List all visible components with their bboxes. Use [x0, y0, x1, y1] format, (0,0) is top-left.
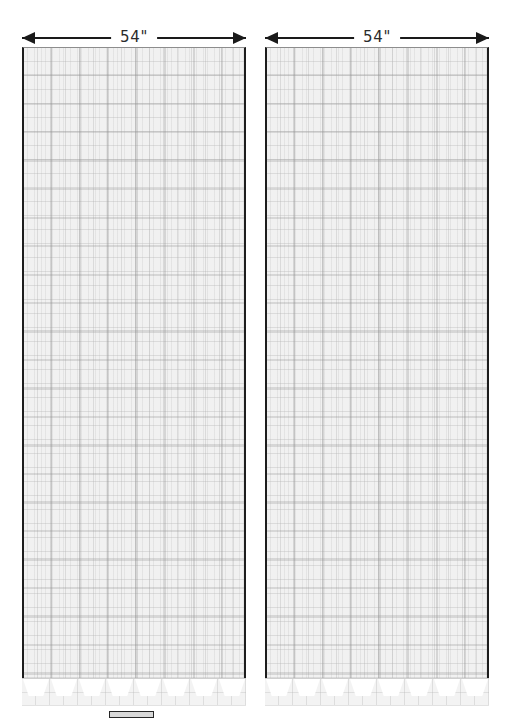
arrow-right-icon [233, 32, 246, 44]
hem-notch [406, 679, 432, 696]
hem-notch [107, 679, 133, 696]
hem-notches [265, 679, 489, 705]
hem-notch [191, 679, 217, 696]
curtain-panel-left [22, 47, 246, 678]
hem-notch [135, 679, 161, 696]
hem-notch [350, 679, 376, 696]
hem-notch [378, 679, 404, 696]
hem-notch [23, 679, 49, 696]
hem-notch [163, 679, 189, 696]
curtain-panel-right [265, 47, 489, 678]
arrow-right-icon [476, 32, 489, 44]
dimension-label-left: 54" [111, 26, 157, 48]
arrow-left-icon [265, 32, 278, 44]
hem-notch [266, 679, 292, 696]
panel-hem-right [265, 678, 489, 706]
diagram-canvas: 54" 54" [0, 0, 510, 725]
panel-hem-left [22, 678, 246, 706]
fabric-swatch [109, 711, 154, 718]
hem-notch [79, 679, 105, 696]
hem-notch [294, 679, 320, 696]
hem-notch [322, 679, 348, 696]
hem-notches [22, 679, 246, 705]
dimension-label-right: 54" [354, 26, 400, 48]
arrow-left-icon [22, 32, 35, 44]
hem-notch [51, 679, 77, 696]
hem-notch [434, 679, 460, 696]
hem-notch [219, 679, 245, 696]
hem-notch [462, 679, 488, 696]
